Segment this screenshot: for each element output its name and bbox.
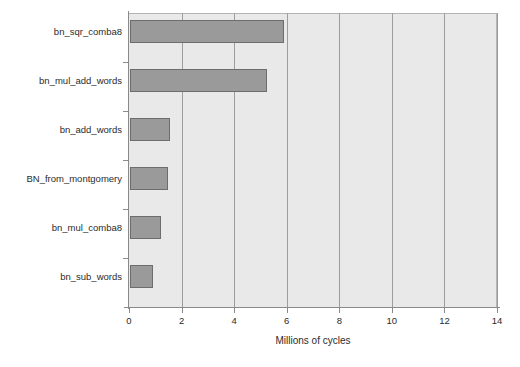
- x-tick-label-4: 4: [231, 315, 236, 326]
- gridline-6: [287, 13, 288, 307]
- x-tick-12: [444, 308, 445, 313]
- x-tick-label-8: 8: [337, 315, 342, 326]
- bar: [130, 69, 267, 92]
- x-tick-4: [234, 308, 235, 313]
- x-tick-14: [497, 308, 498, 313]
- x-tick-label-2: 2: [179, 315, 184, 326]
- y-axis-category-labels: bn_sqr_comba8bn_mul_add_wordsbn_add_word…: [0, 0, 122, 320]
- x-tick-10: [392, 308, 393, 313]
- plot-frame-top: [129, 13, 497, 14]
- gridline-12: [444, 13, 445, 307]
- x-tick-label-12: 12: [439, 315, 450, 326]
- plot-area: [129, 13, 497, 307]
- gridline-14: [497, 13, 498, 307]
- bar: [130, 118, 170, 141]
- x-tick-6: [287, 308, 288, 313]
- y-axis-label-bn_mul_comba8: bn_mul_comba8: [2, 222, 122, 233]
- y-axis-label-bn_mul_add_words: bn_mul_add_words: [2, 75, 122, 86]
- gridline-8: [339, 13, 340, 307]
- y-axis-label-bn_add_words: bn_add_words: [2, 124, 122, 135]
- bar: [130, 167, 168, 190]
- bar: [130, 265, 153, 288]
- x-tick-label-10: 10: [387, 315, 398, 326]
- x-tick-8: [339, 308, 340, 313]
- gridline-2: [182, 13, 183, 307]
- gridline-4: [234, 13, 235, 307]
- x-tick-label-14: 14: [492, 315, 503, 326]
- bar: [130, 20, 284, 43]
- y-axis-label-bn_sub_words: bn_sub_words: [2, 271, 122, 282]
- x-tick-label-0: 0: [126, 315, 131, 326]
- x-tick-2: [182, 308, 183, 313]
- x-axis-title: Millions of cycles: [129, 335, 497, 346]
- bar-chart: bn_sqr_comba8bn_mul_add_wordsbn_add_word…: [0, 0, 520, 367]
- x-tick-0: [129, 308, 130, 313]
- gridline-10: [392, 13, 393, 307]
- y-axis-label-BN_from_montgomery: BN_from_montgomery: [2, 173, 122, 184]
- x-tick-label-6: 6: [284, 315, 289, 326]
- bar: [130, 216, 161, 239]
- y-axis-label-bn_sqr_comba8: bn_sqr_comba8: [2, 26, 122, 37]
